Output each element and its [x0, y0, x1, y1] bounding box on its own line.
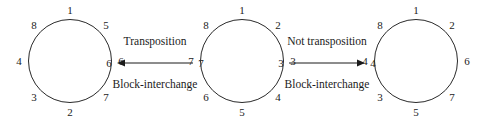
circle-left-node-label: 3: [31, 92, 37, 103]
circle-left-node-label: 2: [67, 107, 73, 118]
transposition-diagram: 15672348 Transposition 6 7 Block-interch…: [0, 0, 483, 122]
circle-middle-ring: [200, 19, 284, 103]
circle-middle-node-label: 4: [275, 92, 281, 103]
circle-middle-node-label: 5: [239, 107, 245, 118]
transform-left-arrow-row: 6 7: [111, 55, 199, 71]
transform-right-source-endpoint: 3: [278, 58, 284, 69]
arrow-right-icon: [289, 55, 365, 71]
transform-left-top-caption: Transposition: [124, 35, 187, 48]
circle-right-node-label: 3: [377, 92, 383, 103]
circle-right-node-label: 4: [362, 56, 368, 67]
circle-right-node-label: 1: [413, 5, 419, 16]
transform-right: Not transposition 3 4 Block-interchange: [283, 35, 371, 93]
circle-right-node-label: 6: [464, 56, 470, 67]
transform-left-target-endpoint: 6: [106, 58, 112, 69]
circle-right: 12675348: [361, 3, 471, 119]
circle-left-node-label: 8: [31, 19, 37, 30]
circle-right-ring: [374, 19, 458, 103]
circle-left-node-label: 5: [103, 19, 109, 30]
circle-right-node-label: 5: [413, 107, 419, 118]
transform-right-bottom-caption: Block-interchange: [285, 78, 370, 91]
circle-left-node-label: 4: [16, 56, 22, 67]
circle-right-node-label: 7: [449, 92, 455, 103]
transform-left: Transposition 6 7 Block-interchange: [111, 35, 199, 93]
circle-middle-node-label: 8: [203, 19, 209, 30]
transform-right-arrow-row: 3 4: [283, 55, 371, 71]
circle-middle-node-label: 2: [275, 19, 281, 30]
circle-right-node-label: 2: [449, 19, 455, 30]
arrow-left-icon: [117, 55, 193, 71]
circle-left-ring: [28, 19, 112, 103]
transform-left-bottom-caption: Block-interchange: [113, 78, 198, 91]
circle-middle-node-label: 6: [203, 92, 209, 103]
circle-middle-node-label: 7: [188, 56, 194, 67]
circle-left-node-label: 7: [103, 92, 109, 103]
circle-middle-node-label: 1: [239, 5, 245, 16]
circle-left-node-label: 1: [67, 5, 73, 16]
circle-right-node-label: 8: [377, 19, 383, 30]
transform-right-top-caption: Not transposition: [287, 35, 367, 48]
